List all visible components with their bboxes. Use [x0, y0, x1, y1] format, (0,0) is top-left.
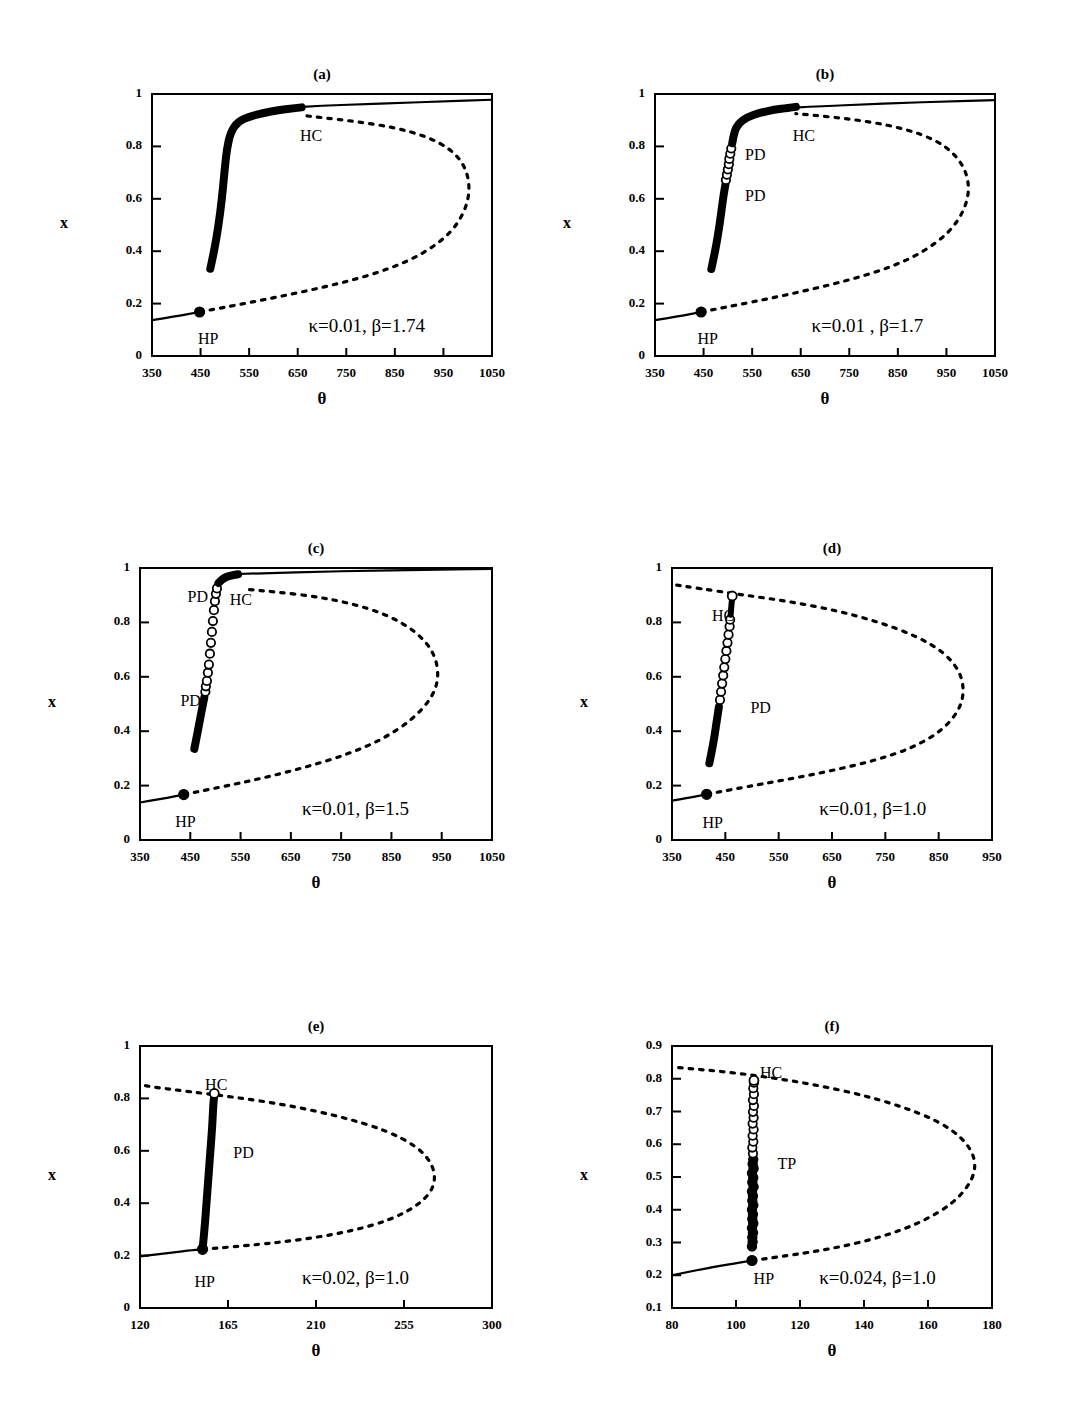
point-label-hc: HC: [230, 591, 252, 609]
xtick-label: 160: [898, 1317, 958, 1333]
y-axis-label-a: x: [60, 214, 68, 232]
data-marker: [205, 660, 213, 668]
panel-title-a: (a): [152, 66, 492, 83]
xtick-label: 140: [834, 1317, 894, 1333]
data-marker: [722, 647, 730, 655]
data-marker: [747, 1168, 756, 1177]
ytick-label: 1: [610, 559, 662, 575]
data-marker: [204, 669, 212, 677]
data-marker: [727, 144, 735, 152]
data-marker: [749, 1114, 757, 1122]
xtick-label: 450: [160, 849, 220, 865]
data-marker: [201, 688, 209, 696]
ytick-label: 1: [78, 1037, 130, 1053]
xtick-label: 300: [462, 1317, 522, 1333]
ytick-label: 0.4: [78, 1194, 130, 1210]
point-label-hc: HC: [793, 127, 815, 145]
data-marker: [748, 1237, 757, 1246]
ytick-label: 1: [593, 85, 645, 101]
xtick-label: 550: [749, 849, 809, 865]
data-marker: [726, 150, 734, 158]
series-stable-steady-state-lower: [655, 312, 701, 320]
marker-hc-circle: [749, 1076, 758, 1085]
point-label-pd: PD: [745, 187, 765, 205]
series-stable-steady-state-upper: [303, 100, 492, 107]
data-marker: [748, 1233, 757, 1242]
plot-area-e: [0, 0, 1086, 1422]
figure-root: (a)00.20.40.60.8135045055065075085095010…: [0, 0, 1086, 1422]
data-marker: [718, 679, 726, 687]
series-stable-steady-state-lower: [140, 795, 184, 803]
xtick-label: 180: [962, 1317, 1022, 1333]
x-axis-label-c: θ: [140, 873, 492, 893]
data-marker: [749, 1173, 758, 1182]
xtick-label: 550: [219, 365, 279, 381]
x-axis-label-e: θ: [140, 1341, 492, 1361]
parameter-annotation-c: κ=0.01, β=1.5: [302, 798, 409, 820]
data-marker: [749, 1125, 757, 1133]
xtick-label: 950: [412, 849, 472, 865]
point-label-hp: HP: [698, 330, 718, 348]
data-marker: [725, 160, 733, 168]
ytick-label: 0.8: [90, 137, 142, 153]
series-stable-steady-state-lower: [672, 1261, 752, 1276]
ytick-label: 0.4: [90, 242, 142, 258]
xtick-label: 850: [868, 365, 928, 381]
ytick-label: 0.9: [610, 1037, 662, 1053]
series-periodic-branch-stable-lower: [711, 184, 725, 269]
xtick-label: 650: [771, 365, 831, 381]
data-marker: [749, 1155, 758, 1164]
ytick-label: 0.4: [593, 242, 645, 258]
data-marker: [749, 1084, 757, 1092]
xtick-label: 210: [286, 1317, 346, 1333]
point-label-hp: HP: [198, 330, 218, 348]
data-marker: [748, 1119, 756, 1127]
xtick-label: 120: [110, 1317, 170, 1333]
plot-area-c: [0, 0, 1086, 1422]
y-axis-label-f: x: [580, 1166, 588, 1184]
xtick-label: 1050: [965, 365, 1025, 381]
panel-b: (b)00.20.40.60.8135045055065075085095010…: [0, 0, 1086, 1422]
panel-d: (d)00.20.40.60.81350450550650750850950xθ…: [0, 0, 1086, 1422]
point-label-hp: HP: [702, 814, 722, 832]
ytick-label: 0.2: [90, 295, 142, 311]
point-label-pd: PD: [750, 699, 770, 717]
ytick-label: 1: [90, 85, 142, 101]
y-axis-label-d: x: [580, 693, 588, 711]
series-unstable-steady-state-dotted: [672, 584, 963, 794]
data-marker: [747, 1242, 756, 1251]
data-marker: [723, 170, 731, 178]
data-marker: [210, 606, 218, 614]
series-periodic-branch-stable: [210, 107, 301, 268]
data-marker: [724, 630, 732, 638]
data-marker: [748, 1178, 757, 1187]
y-axis-label-b: x: [563, 214, 571, 232]
series-periodic-branch-stable-upper: [732, 107, 796, 143]
data-marker: [749, 1149, 757, 1157]
xtick-label: 165: [198, 1317, 258, 1333]
xtick-label: 850: [365, 365, 425, 381]
panel-c: (c)00.20.40.60.8135045055065075085095010…: [0, 0, 1086, 1422]
xtick-label: 650: [802, 849, 862, 865]
marker-hp: [198, 1244, 208, 1254]
data-marker: [720, 663, 728, 671]
ytick-label: 0.4: [610, 1201, 662, 1217]
xtick-label: 1050: [462, 849, 522, 865]
xtick-label: 255: [374, 1317, 434, 1333]
xtick-label: 650: [261, 849, 321, 865]
series-unstable-steady-state-dotted: [678, 1068, 974, 1261]
data-marker: [748, 1132, 756, 1140]
ytick-label: 0.2: [78, 1247, 130, 1263]
data-marker: [213, 584, 221, 592]
panel-title-b: (b): [655, 66, 995, 83]
ytick-label: 0.6: [610, 668, 662, 684]
point-label-hc: HC: [760, 1064, 782, 1082]
data-marker: [749, 1201, 758, 1210]
xtick-label: 100: [706, 1317, 766, 1333]
ytick-label: 0.5: [610, 1168, 662, 1184]
ytick-label: 0.8: [610, 1070, 662, 1086]
ytick-label: 0: [593, 347, 645, 363]
point-label-hp: HP: [754, 1270, 774, 1288]
xtick-label: 450: [674, 365, 734, 381]
data-marker: [747, 1223, 756, 1232]
